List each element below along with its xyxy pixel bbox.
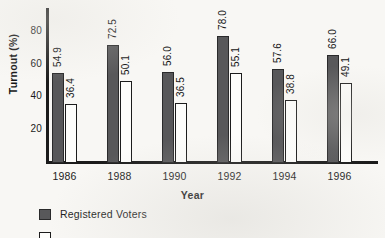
bar-series-2: 38.8 (285, 100, 297, 163)
x-axis-tick-label: 1990 (152, 170, 198, 182)
x-axis-title: Year (0, 189, 385, 201)
bar-group: 72.550.1 (107, 8, 132, 163)
y-axis-tick-label: 40 (20, 90, 42, 101)
bar-value-label: 72.5 (107, 19, 118, 39)
bar-registered-voters: 72.5 (107, 45, 119, 163)
bar-value-label: 36.4 (65, 78, 76, 98)
x-axis-tick-label: 1992 (207, 170, 253, 182)
bar-value-label: 36.5 (175, 78, 186, 98)
x-axis-tick-label: 1994 (262, 170, 308, 182)
bar-series-2: 36.5 (175, 103, 187, 163)
bar-group: 66.049.1 (327, 8, 352, 163)
x-axis-tick-label: 1986 (42, 170, 88, 182)
bar-value-label: 66.0 (327, 29, 338, 49)
bar-series-2: 36.4 (65, 104, 77, 163)
chart-screenshot: Turnout (%) 20406080 54.936.472.550.156.… (0, 0, 385, 238)
bar-registered-voters: 66.0 (327, 55, 339, 163)
bar-registered-voters: 57.6 (272, 69, 284, 163)
bar-value-label: 57.6 (272, 43, 283, 63)
legend-swatch-secondary (39, 232, 51, 239)
legend-swatch-primary (39, 209, 51, 220)
y-axis-ticks: 20406080 (16, 0, 42, 238)
bar-series-2: 55.1 (230, 73, 242, 163)
y-axis-tick-label: 80 (20, 25, 42, 36)
legend-label: Registered Voters (60, 208, 147, 220)
legend-item (39, 229, 339, 238)
bar-registered-voters: 54.9 (52, 73, 64, 163)
y-axis-tick-label: 60 (20, 57, 42, 68)
y-axis-tick-label: 20 (20, 123, 42, 134)
plot-area: 54.936.472.550.156.036.578.055.157.638.8… (46, 8, 376, 163)
bar-value-label: 78.0 (217, 10, 228, 30)
bar-group: 56.036.5 (162, 8, 187, 163)
bar-registered-voters: 78.0 (217, 36, 229, 163)
bar-group: 78.055.1 (217, 8, 242, 163)
bar-value-label: 55.1 (230, 47, 241, 67)
bar-series-2: 50.1 (120, 81, 132, 163)
x-axis-tick-label: 1988 (97, 170, 143, 182)
bar-group: 54.936.4 (52, 8, 77, 163)
legend-item: Registered Voters (39, 206, 339, 222)
bar-series-2: 49.1 (340, 83, 352, 163)
bar-group: 57.638.8 (272, 8, 297, 163)
bar-value-label: 38.8 (285, 74, 296, 94)
bar-value-label: 56.0 (162, 46, 173, 66)
bar-value-label: 49.1 (340, 57, 351, 77)
bar-value-label: 50.1 (120, 55, 131, 75)
bar-value-label: 54.9 (52, 47, 63, 67)
bar-registered-voters: 56.0 (162, 72, 174, 163)
chart-legend: Registered Voters (39, 206, 339, 238)
x-axis-tick-label: 1996 (317, 170, 363, 182)
